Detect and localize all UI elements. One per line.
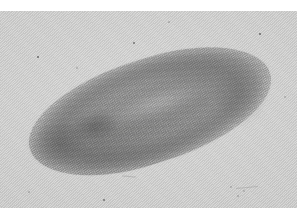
photomicrograph-plate (0, 11, 297, 208)
caption-strip: clipped running text (0, 0, 307, 11)
paper-grain-texture (0, 11, 297, 208)
dust-speck (259, 33, 261, 35)
dust-speck (76, 67, 77, 68)
dust-speck (230, 186, 231, 187)
pharynx-region (63, 102, 131, 150)
dust-speck (243, 190, 244, 191)
dust-speck (28, 191, 29, 192)
posterior-tail-end (12, 115, 95, 186)
dust-speck (133, 42, 135, 44)
halftone-stipple-overlay (14, 24, 286, 199)
page-bottom-margin (0, 208, 307, 224)
anterior-head-end (206, 56, 282, 133)
gut-striations (14, 24, 286, 199)
dust-speck (284, 96, 285, 97)
dust-speck (168, 21, 169, 22)
dust-speck (237, 195, 238, 196)
caption-text: clipped running text (178, 0, 246, 1)
scanned-page: clipped running text (0, 0, 307, 224)
flatworm-specimen (18, 33, 280, 188)
dust-speck (37, 56, 39, 58)
stippled-body-margin (14, 24, 286, 199)
dust-speck (103, 199, 105, 201)
plate-scratch (122, 176, 136, 178)
specimen-body (14, 24, 286, 199)
page-right-margin (297, 0, 307, 224)
plate-vignette (0, 11, 297, 208)
pale-midline (95, 69, 223, 136)
plate-scratch (236, 186, 258, 189)
